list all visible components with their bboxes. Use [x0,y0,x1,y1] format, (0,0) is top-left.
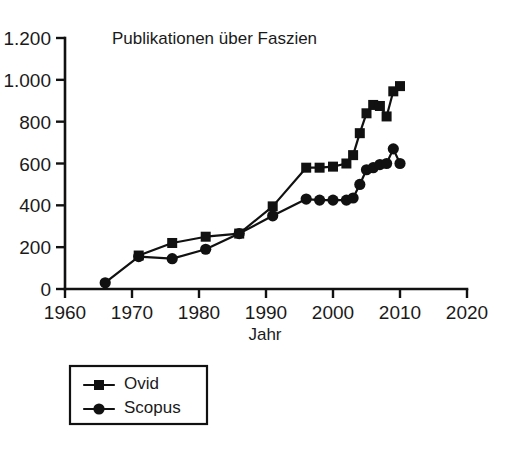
chart-figure: 02004006008001.0001.200 1960197019801990… [0,0,516,449]
x-axis-label: Jahr [248,325,281,344]
publications-line-chart: 02004006008001.0001.200 1960197019801990… [0,0,516,449]
legend-label: Ovid [124,374,159,393]
y-tick-label: 1.200 [3,28,51,49]
data-point-marker [201,232,211,242]
data-point-marker [234,228,245,239]
data-point-marker [348,150,358,160]
data-point-marker [395,81,405,91]
data-point-marker [100,277,111,288]
data-point-marker [167,238,177,248]
y-tick-label: 1.000 [3,70,51,91]
data-point-marker [315,163,325,173]
data-point-marker [301,193,312,204]
legend-square-marker-icon [94,380,104,390]
data-point-marker [314,195,325,206]
data-point-marker [301,163,311,173]
data-point-marker [355,128,365,138]
data-point-marker [133,251,144,262]
x-tick-label: 2000 [312,302,354,323]
data-point-marker [200,244,211,255]
data-point-marker [268,201,278,211]
chart-title: Publikationen über Faszien [112,29,317,48]
legend-circle-marker-icon [93,403,104,414]
data-point-marker [167,253,178,264]
y-tick-label: 800 [19,112,51,133]
x-tick-label: 1980 [178,302,220,323]
y-tick-label: 400 [19,195,51,216]
y-tick-label: 600 [19,154,51,175]
data-point-marker [382,111,392,121]
x-tick-label: 1970 [111,302,153,323]
x-tick-label: 1990 [245,302,287,323]
legend-label: Scopus [124,398,181,417]
data-point-marker [381,158,392,169]
x-tick-label: 2020 [446,302,488,323]
data-point-marker [348,192,359,203]
x-tick-label: 2010 [379,302,421,323]
data-point-marker [375,101,385,111]
y-tick-label: 0 [40,279,51,300]
data-point-marker [394,158,405,169]
x-tick-label: 1960 [44,302,86,323]
y-tick-label: 200 [19,237,51,258]
chart-legend: OvidScopus [70,366,207,424]
data-point-marker [354,179,365,190]
data-point-marker [388,143,399,154]
data-point-marker [267,210,278,221]
data-point-marker [328,162,338,172]
data-point-marker [327,195,338,206]
